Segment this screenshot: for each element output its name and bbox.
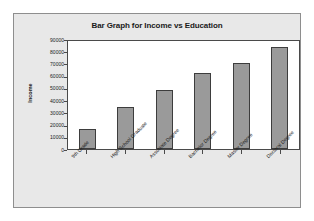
chart-title: Bar Graph for Income vs Education — [14, 21, 300, 30]
bar-slot — [68, 41, 107, 149]
x-axis-tick-mark — [241, 150, 242, 154]
x-axis-tick-mark — [280, 150, 281, 154]
y-axis-tick-label: 10000 — [36, 135, 64, 140]
y-axis-tick-labels: 9000080000700006000050000400003000020000… — [36, 40, 64, 150]
bar-series — [68, 41, 299, 149]
chart-panel: Bar Graph for Income vs Education Income… — [13, 13, 301, 208]
y-axis-tick-label: 60000 — [36, 74, 64, 79]
y-axis-tick-label: 90000 — [36, 38, 64, 43]
y-axis-tick-label: 30000 — [36, 111, 64, 116]
x-axis-tick-mark — [202, 150, 203, 154]
y-axis-tick-label: 70000 — [36, 62, 64, 67]
plot-area — [67, 40, 300, 150]
x-axis-category-labels: 9th GradeHigh School GraduateAssociate D… — [67, 155, 300, 207]
y-axis-tick-label: 50000 — [36, 86, 64, 91]
x-axis-tick-mark — [86, 150, 87, 154]
x-axis-tick-mark — [164, 150, 165, 154]
screenshot-page: Bar Graph for Income vs Education Income… — [0, 0, 314, 221]
x-axis-tick-mark — [125, 150, 126, 154]
y-axis-tick-label: 80000 — [36, 50, 64, 55]
y-axis-tick-label: 40000 — [36, 99, 64, 104]
y-axis-tick-label: 20000 — [36, 123, 64, 128]
bar-slot — [222, 41, 261, 149]
y-axis-tick-label: 0 — [36, 148, 64, 153]
y-axis-title: Income — [27, 73, 33, 113]
